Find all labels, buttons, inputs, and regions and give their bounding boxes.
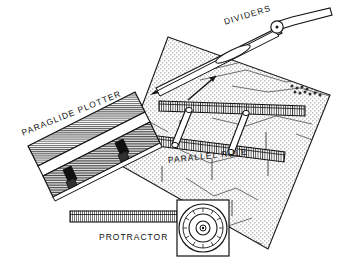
dividers-pivot-center bbox=[276, 26, 279, 29]
illustration-figure: DIVIDERS PARAGLIDE PLOTTER PARALLEL RULE… bbox=[0, 0, 340, 266]
label-protractor: PROTRACTOR bbox=[99, 232, 168, 242]
protractor-center-dot bbox=[202, 227, 204, 229]
protractor[interactable] bbox=[70, 200, 229, 256]
instruments-illustration bbox=[0, 0, 340, 266]
